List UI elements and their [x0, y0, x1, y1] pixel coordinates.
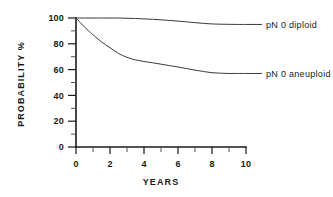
x-tick-label: 8 [209, 159, 214, 169]
chart-figure: 020406080100 0246810 pN 0 diploidpN 0 an… [0, 0, 333, 197]
x-tick-label: 0 [73, 159, 78, 169]
x-tick-label: 2 [107, 159, 112, 169]
x-axis-title: YEARS [143, 177, 180, 187]
y-tick-label: 20 [54, 116, 64, 126]
series-label-0: pN 0 diploid [266, 20, 317, 30]
x-tick-label: 10 [241, 159, 251, 169]
x-tick-label: 4 [141, 159, 146, 169]
series-label-1: pN 0 aneuploid [266, 69, 331, 79]
x-tick-label: 6 [175, 159, 180, 169]
y-tick-label: 80 [54, 39, 64, 49]
y-tick-label: 0 [59, 142, 64, 152]
y-tick-label: 60 [54, 65, 64, 75]
y-axis-title: PROBABILITY % [16, 41, 26, 127]
survival-curve-chart: 020406080100 0246810 pN 0 diploidpN 0 an… [0, 0, 333, 197]
y-tick-label: 40 [54, 91, 64, 101]
y-tick-label: 100 [48, 13, 64, 23]
